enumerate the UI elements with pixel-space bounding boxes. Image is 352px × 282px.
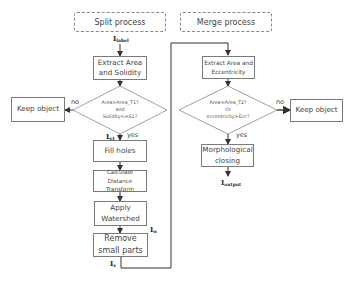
extract-area-solidity-box: Extract Area and Solidity [93,56,147,80]
remove-small-parts-box: Remove small parts [93,233,148,257]
merge-condition-text: Area<Area_T2? Or eccentricity>Ecc? [196,99,260,121]
merge-process-header: Merge process [180,12,272,32]
merge-no-label: no [276,98,284,106]
extract-area-eccentricity-box: Extract Area and Eccentricity [202,56,255,79]
morphological-closing-box: Morphological closing [201,144,254,167]
split-keep-object-box: Keep object [11,97,65,122]
merge-keep-object-box: Keep object [290,99,343,122]
connector-lines [0,0,352,282]
split-no-label: no [71,98,79,106]
split-process-header: Split process [74,12,166,32]
is-label: Is [110,259,116,268]
input-label-ilabel: Ilabel [113,34,129,43]
merge-yes-label: yes [236,131,247,139]
iw-label: Iw [150,225,157,234]
split-condition-text: Area>Area_T1? and Solidity<=S1? [90,99,150,121]
split-yes-label: yes [127,131,138,139]
apply-watershed-box: Apply Watershed [94,201,147,226]
output-label: Ioutput [221,178,241,187]
distance-transform-box: Calculate Distance Transform [93,170,147,192]
fill-holes-box: Fill holes [93,140,147,162]
